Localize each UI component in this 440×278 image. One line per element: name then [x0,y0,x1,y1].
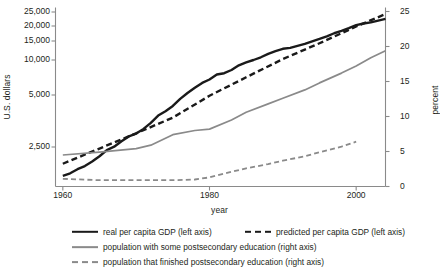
series-line-1 [63,14,386,164]
legend-dash-black-line-icon [245,228,271,236]
legend-item[interactable]: real per capita GDP (left axis) [72,227,212,237]
legend-item[interactable]: predicted per capita GDP (left axis) [245,227,405,237]
legend-label: population that finished postsecondary e… [103,257,324,267]
legend-dash-gray-line-icon [72,258,98,266]
legend-label: predicted per capita GDP (left axis) [276,227,405,237]
legend-label: population with some postsecondary educa… [103,242,317,252]
legend-row: real per capita GDP (left axis)predicted… [0,227,439,242]
series-line-3 [63,142,356,181]
legend-solid-gray-line-icon [72,243,98,251]
legend-row: population that finished postsecondary e… [0,257,439,272]
legend-solid-black-line-icon [72,228,98,236]
chart-legend: real per capita GDP (left axis)predicted… [0,227,439,272]
legend-item[interactable]: population that finished postsecondary e… [72,257,324,267]
legend-label: real per capita GDP (left axis) [103,227,212,237]
series-line-2 [63,51,386,155]
series-layer [63,14,386,180]
series-line-0 [63,19,386,176]
legend-item[interactable]: population with some postsecondary educa… [72,242,317,252]
legend-row: population with some postsecondary educa… [0,242,439,257]
